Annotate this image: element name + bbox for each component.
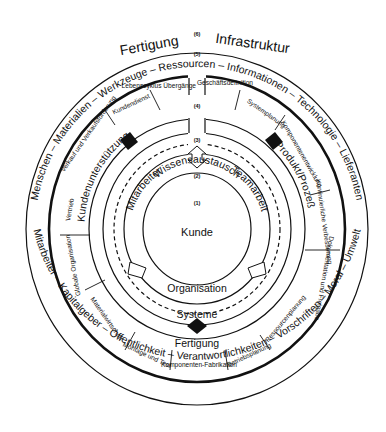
ring2-organisation: Organisation: [167, 282, 227, 294]
level-5-label: (5): [194, 51, 201, 57]
ring3-systeme: Systeme: [177, 308, 218, 320]
segment-lebenszyklus: Lebenszyklus Übergänge: [122, 82, 197, 90]
diamond-bottom: [187, 318, 207, 334]
arrow-right: [248, 262, 266, 278]
segment-geschaeftsdefinition: Geschäftsdefinition: [197, 79, 253, 86]
level-6-label: (6): [194, 31, 201, 37]
segment-kundendienst: Kundendienst: [111, 92, 151, 115]
title-infrastruktur: Infrastruktur: [215, 30, 292, 56]
segment-vertrieb: Vertrieb: [64, 197, 75, 221]
ring2-mitarbeiter: Mitarbeiter: [123, 164, 164, 212]
ring2-teamarbeit: Teamarbeit: [230, 163, 272, 212]
arrow-left: [128, 262, 146, 278]
title-fertigung: Fertigung: [119, 32, 180, 58]
level-4-label: (4): [194, 103, 201, 109]
concentric-cim-diagram: (6) (5) (4) (3) (2) (1) Fertigung Infras…: [0, 0, 386, 432]
center-kunde: Kunde: [181, 226, 213, 238]
level-1-label: (1): [194, 200, 201, 206]
level-3-label: (3): [194, 137, 201, 143]
ring3-fertigung: Fertigung: [175, 337, 220, 349]
level-2-label: (2): [194, 173, 201, 179]
